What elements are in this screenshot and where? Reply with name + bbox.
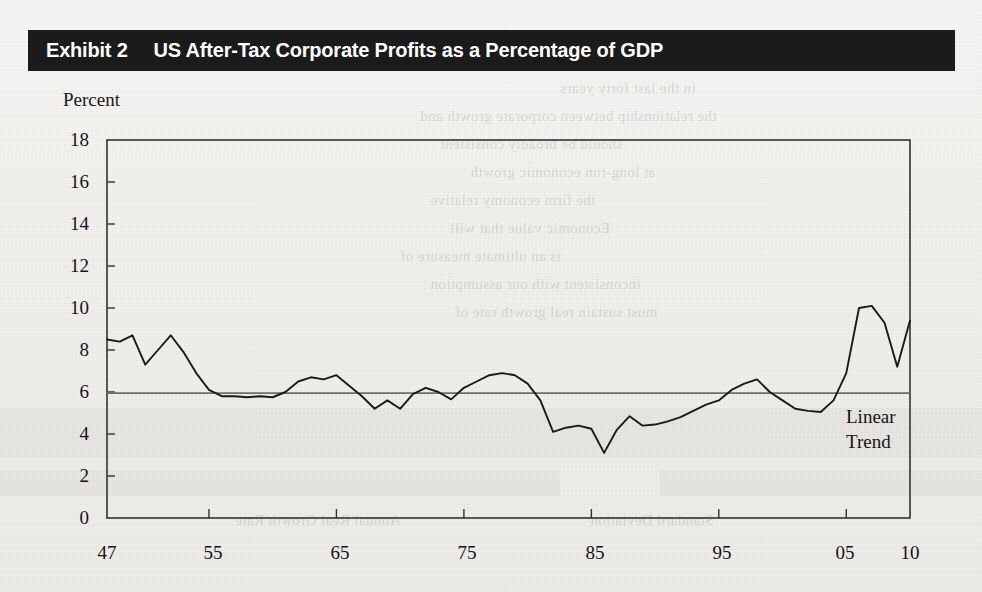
x-axis-ticks	[209, 509, 846, 518]
plot-frame	[107, 140, 910, 518]
y-axis-ticks	[107, 182, 115, 476]
profit-series-line	[107, 306, 910, 453]
chart: Percent 18 16 14 12 10 8 6 4 2 0 47 55 6…	[0, 0, 982, 592]
plot-svg	[0, 0, 982, 592]
